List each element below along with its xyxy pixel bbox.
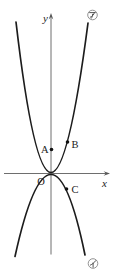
curve-a-badge xyxy=(88,10,98,20)
point-b-label: B xyxy=(72,139,79,150)
y-axis-label: y xyxy=(42,12,48,24)
point-c-marker xyxy=(65,187,69,191)
point-c-label: C xyxy=(72,184,79,195)
x-axis-label: x xyxy=(101,177,107,189)
point-a-marker xyxy=(50,148,54,152)
point-a-label: A xyxy=(41,144,49,155)
curve-i-badge xyxy=(88,259,98,269)
quadratic-graph-figure: y x O A B C xyxy=(0,0,117,277)
origin-label: O xyxy=(37,176,45,187)
y-axis xyxy=(49,13,54,255)
graph-canvas: y x O A B C xyxy=(0,0,117,277)
point-b-marker xyxy=(66,140,70,144)
x-axis xyxy=(4,171,110,176)
